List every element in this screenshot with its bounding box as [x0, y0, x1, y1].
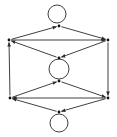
self-loop-bottom [50, 114, 68, 132]
node-top [58, 25, 61, 28]
self-loop-top [48, 5, 66, 23]
node-center-upper [58, 57, 61, 60]
edge-center-upper-to-left-upper [11, 41, 56, 57]
edge-left-lower-to-left-upper [9, 42, 10, 95]
nodes-group [8, 25, 110, 114]
edge-left-lower-to-center-lower [12, 82, 56, 97]
node-left-lower [9, 97, 12, 100]
node-right-lower [107, 97, 110, 100]
node-center-lower [58, 80, 61, 83]
node-left-upper [8, 39, 11, 42]
edge-left-upper-to-top [11, 27, 56, 40]
edge-bottom-to-left-lower [12, 99, 56, 112]
self-loop-center [49, 59, 69, 79]
node-right-upper [107, 39, 110, 42]
node-bottom [58, 111, 61, 114]
edge-top-to-right-upper [61, 27, 105, 40]
directed-graph-diagram [0, 0, 117, 137]
edge-right-lower-to-bottom [61, 99, 105, 112]
edge-center-lower-to-right-lower [61, 82, 105, 97]
edges-group [9, 27, 108, 112]
edge-right-upper-to-center-upper [61, 41, 105, 57]
